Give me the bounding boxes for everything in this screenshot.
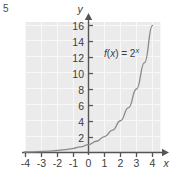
y-tick-label-6: 6 bbox=[78, 100, 84, 112]
function-label-exponent: x bbox=[134, 46, 139, 55]
coordinate-plot: 16 14 12 10 8 6 4 2 -4 -3 -2 -1 0 1 2 3 … bbox=[0, 0, 172, 171]
y-tick-label-2: 2 bbox=[78, 132, 84, 144]
x-tick-label-neg3: -3 bbox=[37, 157, 46, 169]
function-label: f(x) = 2x bbox=[104, 46, 139, 59]
y-tick-label-16: 16 bbox=[72, 20, 84, 32]
y-tick-label-14: 14 bbox=[72, 36, 84, 48]
y-axis-label: y bbox=[76, 3, 83, 15]
y-tick-label-10: 10 bbox=[72, 68, 84, 80]
x-tick-label-neg2: -2 bbox=[53, 157, 62, 169]
x-tick-label-neg1: -1 bbox=[69, 157, 78, 169]
x-tick-label-neg4: -4 bbox=[21, 157, 30, 169]
x-tick-label-2: 2 bbox=[118, 157, 124, 169]
x-axis-label: x bbox=[162, 157, 169, 169]
x-tick-label-1: 1 bbox=[102, 157, 108, 169]
y-tick-label-12: 12 bbox=[72, 52, 84, 64]
x-tick-label-3: 3 bbox=[134, 157, 140, 169]
y-tick-label-4: 4 bbox=[78, 116, 84, 128]
y-tick-label-8: 8 bbox=[78, 84, 84, 96]
x-tick-label-4: 4 bbox=[150, 157, 156, 169]
figure-container: 5 bbox=[0, 0, 172, 171]
x-tick-label-0: 0 bbox=[86, 157, 92, 169]
